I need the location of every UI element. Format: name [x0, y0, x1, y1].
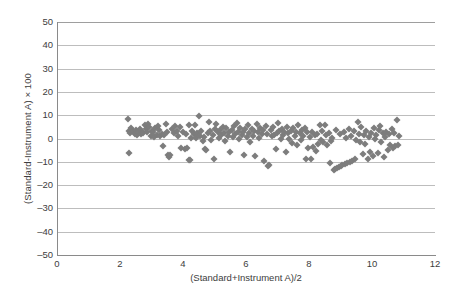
y-tick-label: –30	[27, 203, 53, 213]
figure-container: (Standard-Instrument A) × 100 5040302010…	[0, 0, 456, 298]
gridline-y-40	[57, 45, 435, 46]
data-point	[162, 121, 169, 128]
data-point	[329, 134, 336, 141]
y-tick-label: –40	[27, 227, 53, 237]
x-tick-label: 4	[168, 258, 198, 269]
data-point	[282, 149, 289, 156]
gridline-y--30	[57, 208, 435, 209]
y-tick-label: 30	[27, 64, 53, 74]
data-point	[362, 141, 369, 148]
data-point	[203, 147, 210, 154]
gridline-y-20	[57, 92, 435, 93]
gridline-y-30	[57, 69, 435, 70]
x-tick-label: 10	[357, 258, 387, 269]
y-tick-label: –10	[27, 157, 53, 167]
x-axis-tick-labels: 024681012	[0, 258, 456, 272]
x-tick-label: 6	[231, 258, 261, 269]
data-point	[160, 142, 167, 149]
gridline-y--20	[57, 185, 435, 186]
data-point	[272, 145, 279, 152]
data-point	[205, 118, 212, 125]
y-tick-label: 10	[27, 110, 53, 120]
data-point	[380, 153, 387, 160]
data-point	[393, 116, 400, 123]
gridline-y--40	[57, 232, 435, 233]
x-tick-label: 2	[105, 258, 135, 269]
data-point	[252, 152, 259, 159]
data-point	[312, 147, 319, 154]
x-tick-label: 12	[420, 258, 450, 269]
y-tick-label: 0	[27, 134, 53, 144]
y-tick-label: 20	[27, 87, 53, 97]
data-point	[227, 148, 234, 155]
data-point	[195, 113, 202, 120]
data-point	[126, 150, 133, 157]
data-point	[124, 115, 131, 122]
data-point	[210, 155, 217, 162]
y-axis-tick-labels: 50403020100–10–20–30–40–50	[26, 0, 53, 298]
gridline-y-50	[57, 22, 435, 23]
data-point	[167, 151, 174, 158]
data-point	[326, 159, 333, 166]
y-tick-label: 40	[27, 40, 53, 50]
data-point	[359, 150, 366, 157]
data-point	[241, 151, 248, 158]
y-axis-line	[57, 22, 58, 256]
gridline-y-10	[57, 115, 435, 116]
y-tick-label: –20	[27, 180, 53, 190]
x-axis-title: (Standard+Instrument A)/2	[57, 272, 435, 283]
x-tick-label: 8	[294, 258, 324, 269]
gridline-y--10	[57, 162, 435, 163]
x-tick-label: 0	[42, 258, 72, 269]
plot-area	[57, 22, 435, 255]
x-axis-line	[57, 255, 436, 256]
y-tick-label: 50	[27, 17, 53, 27]
